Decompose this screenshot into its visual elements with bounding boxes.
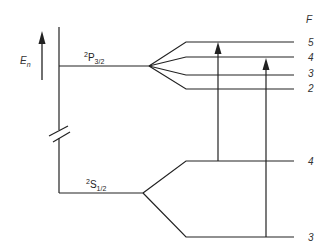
upper-f-label-4: 4 <box>308 52 314 63</box>
upper-f-label-5: 5 <box>308 37 314 48</box>
f-column-header: F <box>306 14 313 25</box>
upper-f-label-2: 2 <box>307 83 314 94</box>
lower-term-label: 2S1/2 <box>86 178 106 192</box>
upper-f-label-3: 3 <box>308 68 314 79</box>
lower-f-label-3: 3 <box>308 232 314 243</box>
transition-arrow-f3-to-f4 <box>263 58 270 237</box>
lower-term-level <box>59 161 294 237</box>
transition-arrow-f4-to-f5 <box>215 42 222 161</box>
energy-axis-label: En <box>20 55 31 68</box>
vertical-axis-with-break <box>49 27 70 193</box>
upper-term-label: 2P3/2 <box>84 51 104 65</box>
upper-term-level <box>59 42 294 89</box>
lower-f-label-4: 4 <box>308 156 314 167</box>
energy-level-diagram: En 2P3/2 2S1/2 F 5 4 3 2 4 3 <box>0 0 333 249</box>
energy-axis-arrow-icon <box>39 31 46 80</box>
